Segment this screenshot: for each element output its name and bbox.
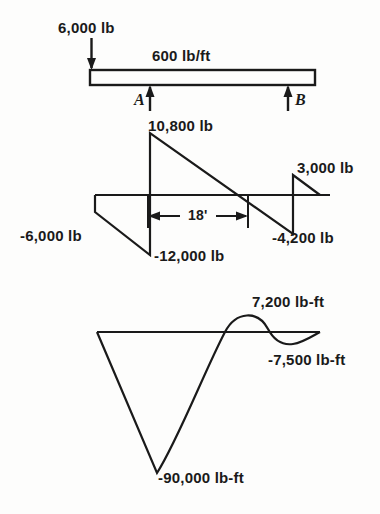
distributed-load-label: 600 lb/ft [152, 48, 210, 63]
beam-body [90, 70, 315, 85]
moment-trace [97, 315, 320, 473]
beam-shear-moment-figure: 6,000 lb 600 lb/ft A B 10,800 lb -6,000 … [0, 0, 380, 514]
span-dimension-label: 18' [188, 208, 208, 222]
point-load-label: 6,000 lb [58, 20, 115, 35]
support-b-label: B [295, 92, 306, 108]
shear-right-peak-label: 3,000 lb [297, 160, 354, 175]
support-a-arrow [146, 85, 155, 111]
moment-negative-dip-label: -7,500 lb-ft [268, 352, 345, 367]
shear-left-end-label: -6,000 lb [20, 228, 82, 243]
shear-drop-label: -12,000 lb [154, 248, 224, 263]
support-b-arrow [284, 85, 293, 111]
point-load-arrow [87, 38, 96, 70]
shear-peak-positive-label: 10,800 lb [148, 118, 213, 133]
moment-minimum-label: -90,000 lb-ft [158, 470, 244, 485]
support-a-label: A [134, 92, 145, 108]
shear-right-low-label: -4,200 lb [272, 230, 334, 245]
moment-positive-peak-label: 7,200 lb-ft [252, 294, 324, 309]
